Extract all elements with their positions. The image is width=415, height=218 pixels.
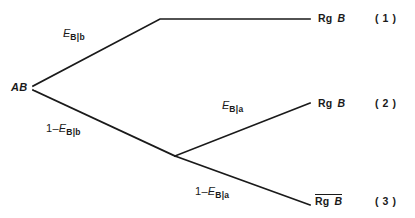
branch-label-mid-upper-subscript: B|a xyxy=(229,104,243,114)
outcome-3-label: RgB xyxy=(315,194,342,207)
branch-label-upper: EB|b xyxy=(63,28,85,42)
branch-label-mid-lower-prefix: 1– xyxy=(195,185,208,197)
outcome-3-symbol: B xyxy=(334,195,342,207)
outcome-3-index: ( 3 ) xyxy=(375,196,397,207)
branch-label-upper-subscript: B|b xyxy=(70,32,85,42)
node-root-label: AB xyxy=(11,82,27,93)
branch-label-lower: 1–EB|b xyxy=(46,123,81,137)
outcome-2-symbol: B xyxy=(337,97,345,109)
outcome-1-label: RgB xyxy=(318,13,345,24)
branch-label-lower-prefix: 1– xyxy=(46,122,59,134)
branch-label-mid-upper: EB|a xyxy=(222,100,244,114)
probability-tree-figure: AB EB|b 1–EB|b EB|a 1–EB|a RgB ( 1 ) RgB… xyxy=(0,0,415,218)
branch-label-mid-lower: 1–EB|a xyxy=(195,186,229,200)
branch-label-lower-subscript: B|b xyxy=(66,127,81,137)
outcome-2-prefix: Rg xyxy=(318,97,332,109)
outcome-2-index: ( 2 ) xyxy=(375,98,397,109)
outcome-2-label: RgB xyxy=(318,98,345,109)
outcome-1-index: ( 1 ) xyxy=(375,13,397,24)
outcome-3-prefix: Rg xyxy=(315,195,329,207)
outcome-1-prefix: Rg xyxy=(318,12,332,24)
outcome-1-symbol: B xyxy=(337,12,345,24)
branch-label-mid-lower-subscript: B|a xyxy=(215,190,229,200)
